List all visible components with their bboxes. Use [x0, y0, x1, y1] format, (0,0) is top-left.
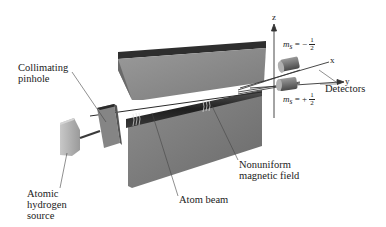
- y-axis-label: y: [345, 76, 350, 86]
- hydrogen-source-label: Atomic hydrogen source: [27, 188, 67, 221]
- label-line: source: [27, 210, 67, 221]
- source-beam: [80, 131, 100, 138]
- label-line: hydrogen: [27, 199, 67, 210]
- label-line: Collimating: [18, 62, 68, 73]
- label-line: pinhole: [18, 73, 68, 84]
- sign: = +: [295, 94, 307, 104]
- spin-up-state-label: ms = + 12: [283, 92, 315, 107]
- spin-down-state-label: ms = − 12: [283, 37, 315, 52]
- fraction: 12: [309, 92, 315, 107]
- collimating-pinhole: [97, 104, 122, 148]
- collimating-pinhole-label: Collimating pinhole: [18, 62, 68, 84]
- fraction: 12: [309, 37, 315, 52]
- sign: = −: [295, 39, 307, 49]
- denominator: 2: [309, 45, 315, 52]
- label-line: Nonuniform: [239, 159, 299, 170]
- atom-beam-label: Atom beam: [179, 194, 228, 205]
- denominator: 2: [309, 100, 315, 107]
- subscript: s: [290, 42, 293, 51]
- hydrogen-source: [60, 118, 80, 156]
- stern-gerlach-diagram: Collimating pinhole Atomic hydrogen sour…: [0, 0, 386, 227]
- subscript: s: [290, 97, 293, 106]
- magnetic-field-label: Nonuniform magnetic field: [239, 159, 299, 181]
- label-line: Atomic: [27, 188, 67, 199]
- z-axis-label: z: [272, 12, 276, 22]
- label-line: magnetic field: [239, 170, 299, 181]
- x-axis-label: x: [330, 55, 335, 65]
